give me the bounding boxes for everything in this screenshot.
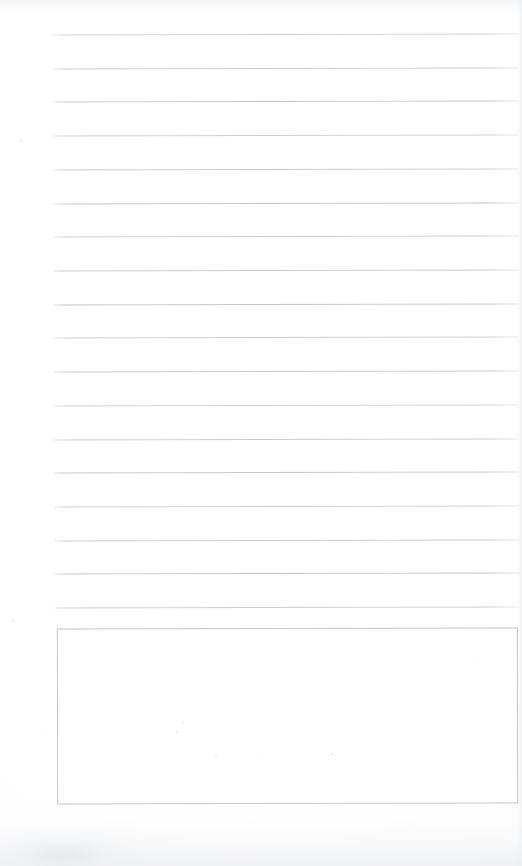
scan-speckle: [46, 735, 47, 736]
scan-speckle: [331, 753, 333, 755]
answer-box[interactable]: [57, 628, 518, 805]
scan-speckle: [9, 420, 10, 421]
ruled-line: [54, 606, 519, 608]
scan-speckle: [176, 731, 178, 733]
scan-speckle: [215, 754, 217, 756]
scan-speckle: [182, 721, 184, 723]
page-text-content: [54, 34, 519, 604]
scan-speckle: [479, 661, 480, 662]
bottom-left-smudge: [0, 788, 190, 866]
scan-speckle: [20, 140, 22, 142]
scan-speckle: [12, 620, 14, 622]
notepad-page: [0, 0, 522, 866]
scan-speckle: [330, 757, 331, 758]
scan-speckle: [263, 755, 264, 756]
